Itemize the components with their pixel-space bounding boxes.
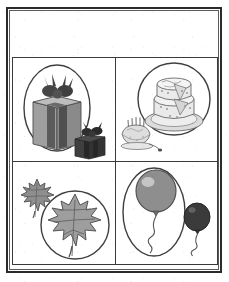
balloon-string [148, 216, 156, 253]
picture-grid [12, 57, 218, 265]
cell-bottom-right-balloons[interactable] [116, 162, 219, 266]
small-balloon [184, 203, 210, 256]
gift-bow [42, 74, 73, 99]
small-maple-leaf [21, 179, 54, 218]
header-band [12, 13, 216, 57]
large-balloon [136, 170, 176, 253]
cell-bottom-left-leaves[interactable] [13, 162, 116, 266]
large-gift-box [33, 74, 81, 150]
leaves-illustration [13, 162, 116, 266]
cell-top-right-cakes[interactable] [116, 58, 219, 162]
gifts-illustration [13, 58, 116, 162]
large-maple-leaf [48, 194, 101, 257]
balloon-string [191, 234, 197, 256]
balloons-illustration [116, 162, 219, 266]
cell-top-left-gifts[interactable] [13, 58, 116, 162]
cakes-illustration [116, 58, 219, 162]
worksheet-page [0, 0, 229, 282]
large-layer-cake [145, 78, 203, 131]
